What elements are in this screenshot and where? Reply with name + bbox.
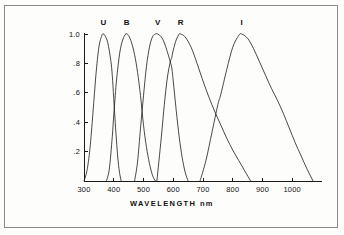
- y-tick-label: .4: [52, 118, 80, 127]
- curve-r: [157, 33, 251, 181]
- x-tick-label: 300: [68, 185, 100, 194]
- x-tick-label: 500: [128, 185, 160, 194]
- curve-label-i: I: [232, 18, 252, 27]
- x-axis-title: WAVELENGTH nm: [0, 199, 344, 208]
- curve-label-b: B: [117, 18, 137, 27]
- x-tick-label: 1000: [276, 185, 308, 194]
- y-tick-label: .2: [52, 147, 80, 156]
- curves-group: [84, 33, 313, 181]
- curve-i: [200, 34, 313, 181]
- curve-v: [135, 34, 189, 181]
- x-tick-label: 400: [98, 185, 130, 194]
- curve-label-r: R: [171, 18, 191, 27]
- y-tick-label: 1.0: [52, 30, 80, 39]
- y-tick-label: .8: [52, 59, 80, 68]
- curve-label-v: V: [148, 18, 168, 27]
- figure-container: .2.4.6.81.0 3004005006007008009001000 UB…: [0, 0, 344, 235]
- x-tick-label: 900: [247, 185, 279, 194]
- y-tick-label: .6: [52, 88, 80, 97]
- x-tick-label: 800: [217, 185, 249, 194]
- x-tick-label: 600: [157, 185, 189, 194]
- curve-label-u: U: [93, 18, 113, 27]
- x-tick-label: 700: [187, 185, 219, 194]
- curve-u: [84, 34, 121, 181]
